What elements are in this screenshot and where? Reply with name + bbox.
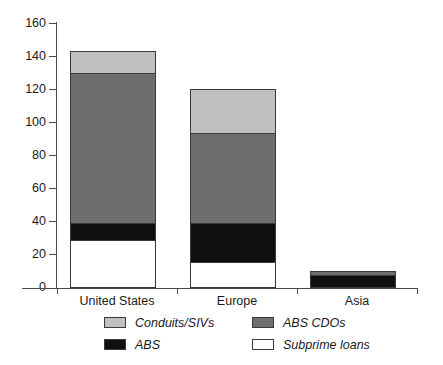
stacked-bar-chart: 160 140 120 100 80 60 40 20 0 bbox=[0, 0, 443, 365]
legend-swatch-abs bbox=[104, 339, 126, 350]
legend-item-conduits-sivs[interactable]: Conduits/SIVs bbox=[104, 313, 214, 332]
x-axis-label-europe: Europe bbox=[177, 293, 297, 309]
x-axis-line bbox=[22, 288, 418, 289]
bar-segment-abs-cdos bbox=[70, 73, 156, 224]
legend-label-abs-cdos: ABS CDOs bbox=[283, 316, 346, 330]
x-tick-mark-3 bbox=[417, 288, 418, 294]
x-axis-label-united-states: United States bbox=[57, 293, 177, 309]
y-tick-label-80: 80 bbox=[2, 149, 46, 161]
chart-legend: Conduits/SIVs ABS CDOs ABS Subprime loan… bbox=[104, 313, 372, 355]
legend-row-2: ABS Subprime loans bbox=[104, 335, 372, 354]
y-tick-160: 160 bbox=[0, 17, 46, 29]
y-tick-60: 60 bbox=[0, 182, 46, 194]
bar-asia[interactable] bbox=[310, 271, 396, 288]
legend-swatch-abs-cdos bbox=[252, 317, 274, 328]
y-tick-80: 80 bbox=[0, 149, 46, 161]
legend-label-subprime-loans: Subprime loans bbox=[283, 338, 370, 352]
legend-row-1: Conduits/SIVs ABS CDOs bbox=[104, 313, 372, 332]
y-tick-label-100: 100 bbox=[2, 116, 46, 128]
y-tick-140: 140 bbox=[0, 50, 46, 62]
bar-europe[interactable] bbox=[190, 89, 276, 288]
y-tick-label-160: 160 bbox=[2, 17, 46, 29]
bar-segment-conduits-sivs bbox=[190, 89, 276, 134]
x-axis-label-asia: Asia bbox=[297, 293, 417, 309]
bar-segment-abs bbox=[70, 223, 156, 241]
bar-segment-abs bbox=[310, 275, 396, 288]
bar-segment-conduits-sivs bbox=[70, 51, 156, 74]
y-tick-0: 0 bbox=[0, 281, 46, 293]
legend-label-abs: ABS bbox=[135, 338, 160, 352]
bar-segment-subprime-loans bbox=[70, 240, 156, 288]
y-tick-label-40: 40 bbox=[2, 215, 46, 227]
bar-segment-abs-cdos bbox=[190, 133, 276, 224]
legend-label-conduits-sivs: Conduits/SIVs bbox=[135, 316, 214, 330]
plot-area bbox=[57, 23, 417, 288]
y-tick-120: 120 bbox=[0, 83, 46, 95]
bar-united-states[interactable] bbox=[70, 51, 156, 288]
legend-item-abs[interactable]: ABS bbox=[104, 335, 160, 354]
legend-item-abs-cdos[interactable]: ABS CDOs bbox=[252, 313, 346, 332]
y-tick-label-60: 60 bbox=[2, 182, 46, 194]
y-tick-label-140: 140 bbox=[2, 50, 46, 62]
legend-swatch-conduits-sivs bbox=[104, 317, 126, 328]
y-tick-label-0: 0 bbox=[2, 281, 46, 293]
y-tick-label-120: 120 bbox=[2, 83, 46, 95]
y-tick-20: 20 bbox=[0, 248, 46, 260]
y-tick-40: 40 bbox=[0, 215, 46, 227]
y-tick-100: 100 bbox=[0, 116, 46, 128]
legend-swatch-subprime-loans bbox=[252, 339, 274, 350]
legend-item-subprime-loans[interactable]: Subprime loans bbox=[252, 335, 370, 354]
bar-segment-abs bbox=[190, 223, 276, 263]
y-tick-label-20: 20 bbox=[2, 248, 46, 260]
bar-segment-subprime-loans bbox=[190, 262, 276, 289]
